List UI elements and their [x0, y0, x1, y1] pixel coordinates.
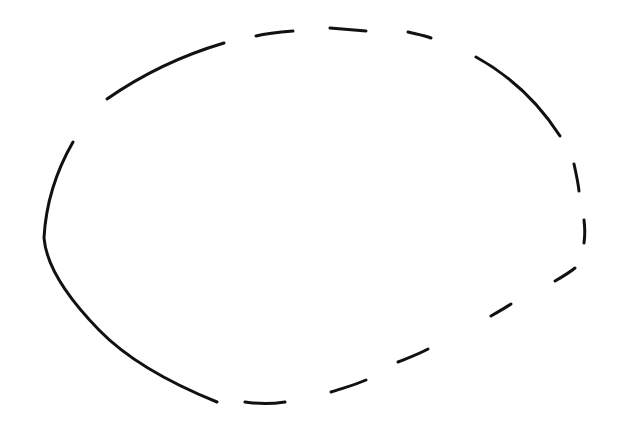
- stroke-segment-bottom-dash: [245, 402, 285, 404]
- background: [0, 0, 637, 433]
- drawing-canvas: [0, 0, 637, 433]
- stroke-segment-right-dash-2: [584, 220, 585, 243]
